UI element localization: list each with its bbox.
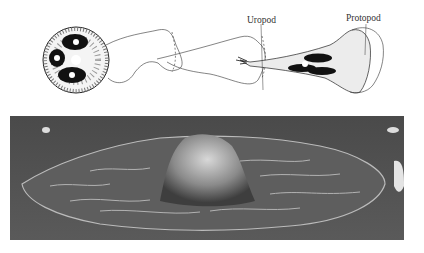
- uropod-label: Uropod: [247, 15, 276, 25]
- protopod-label: Protopod: [346, 13, 381, 23]
- cell-outline-trails: [106, 30, 265, 84]
- rounded-cell: [43, 27, 109, 93]
- sem-micrograph: [10, 116, 404, 240]
- migrating-cell: [236, 24, 383, 93]
